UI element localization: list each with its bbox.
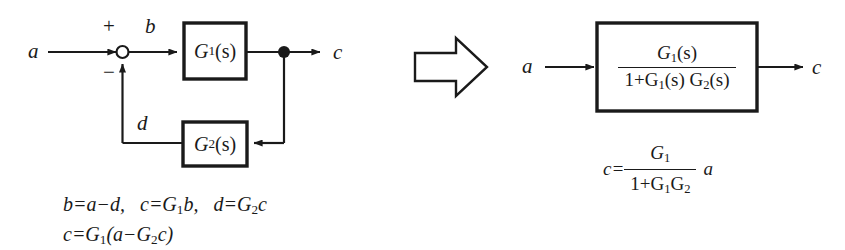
g1-arg: (s): [215, 40, 236, 63]
label-reduced-output-c: c: [812, 57, 821, 78]
feedback-block-g2-label: G2(s): [183, 122, 247, 166]
eq-c-equals-g1b-lhs: c=G: [140, 193, 177, 215]
label-input-a: a: [28, 41, 39, 62]
eq-c-equals-g1b-rhs: b,: [183, 193, 198, 215]
equation-right: c= G1 1+G1G2 a: [603, 140, 713, 198]
eqr-trailing-variable: a: [703, 156, 713, 183]
tf-num-base: G: [657, 42, 671, 63]
tf-den-prefix: 1+G: [624, 69, 658, 90]
tf-den-mid: (s) G: [665, 69, 704, 90]
eq-d-g2-sub: 2: [251, 202, 258, 217]
eqr-lhs: c=: [603, 156, 624, 183]
eqr-fraction: G1 1+G1G2: [624, 140, 696, 198]
label-error-b: b: [145, 16, 156, 37]
equation-line-1: b=a−d, c=G1b, d=G2c: [63, 190, 267, 220]
eqr-denominator: 1+G1G2: [624, 169, 696, 199]
label-output-c: c: [333, 42, 342, 63]
transfer-denominator: 1+G1(s) G2(s): [618, 67, 735, 93]
plus-sign: +: [103, 16, 115, 37]
label-feedback-d: d: [137, 113, 148, 134]
equation-line-2: c=G1(a−G2c): [63, 220, 267, 250]
transfer-numerator: G1(s): [618, 42, 735, 67]
tf-den-suffix: (s): [709, 69, 729, 90]
eq2-lhs: c=G: [63, 223, 100, 245]
eqr-num-sub: 1: [664, 151, 670, 165]
g2-base: G: [194, 133, 208, 156]
g2-subscript: 2: [208, 136, 215, 152]
tf-num-arg: (s): [677, 42, 697, 63]
eq2-rhs: c): [158, 223, 174, 245]
reduced-transfer-block-label: G1(s) 1+G1(s) G2(s): [597, 23, 757, 111]
label-reduced-input-a: a: [522, 56, 533, 77]
implies-arrow-icon: [415, 38, 487, 96]
g1-base: G: [194, 40, 208, 63]
equations-left: b=a−d, c=G1b, d=G2c c=G1(a−G2c): [63, 190, 267, 249]
eq-d-equals-g2c-rhs: c: [258, 193, 267, 215]
minus-sign: −: [103, 62, 115, 83]
summing-junction-icon: [117, 46, 129, 58]
eqr-den-prefix: 1+G: [630, 173, 664, 194]
forward-block-g1-label: G1(s): [184, 23, 246, 79]
eq2-sub2: 2: [151, 232, 158, 247]
eqr-num-base: G: [650, 142, 664, 163]
eqr-den-mid: G: [670, 173, 684, 194]
eqr-numerator: G1: [624, 140, 696, 169]
transfer-function-fraction: G1(s) 1+G1(s) G2(s): [618, 42, 735, 93]
g2-arg: (s): [215, 133, 236, 156]
eq2-mid: (a−G: [106, 223, 151, 245]
eqr-den-sub2: 2: [684, 181, 690, 195]
eq-b-equals-a-minus-d: b=a−d,: [63, 193, 125, 215]
eq-d-equals-g2c-lhs: d=G: [213, 193, 251, 215]
g1-subscript: 1: [208, 43, 215, 59]
block-diagram-figure: a b c d + − G1(s) G2(s) b=a−d, c=G1b, d=…: [0, 0, 845, 250]
